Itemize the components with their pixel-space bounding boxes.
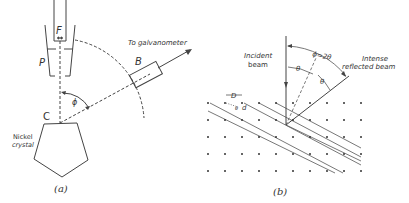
label-crystal: crystal (12, 141, 34, 149)
label-small-theta: θ (235, 105, 238, 111)
label-incident: Incident (244, 52, 272, 60)
label-reflected-beam: reflected beam (342, 63, 396, 71)
label-spacing-D: D (231, 92, 237, 100)
galvanometer-wire (158, 50, 190, 68)
bragg-planes (208, 103, 361, 173)
label-theta-1: θ (296, 65, 301, 73)
caption-b: (b) (273, 186, 287, 197)
label-detector-b: B (135, 56, 142, 67)
figure-b (208, 36, 361, 173)
caption-a: (a) (54, 183, 68, 194)
nickel-crystal (34, 123, 88, 177)
label-intense: Intense (362, 55, 388, 63)
label-nickel: Nickel (13, 133, 33, 141)
detector-arc (75, 40, 144, 118)
label-phi-a: ϕ (72, 98, 78, 107)
electron-diffraction-figure: F P B C ϕ To galvanometer Nickel crystal… (0, 0, 409, 203)
label-theta-2: θ (320, 78, 325, 86)
label-plate-p: P (39, 57, 46, 68)
lattice-dots (207, 102, 362, 172)
reflected-beam-b (286, 76, 349, 125)
label-spacing-d: d (242, 104, 247, 112)
label-incident-beam: beam (248, 61, 268, 69)
label-filament-f: F (56, 25, 62, 36)
plane-normal (286, 58, 316, 125)
label-crystal-c: C (43, 111, 50, 122)
label-galvanometer: To galvanometer (128, 39, 188, 47)
